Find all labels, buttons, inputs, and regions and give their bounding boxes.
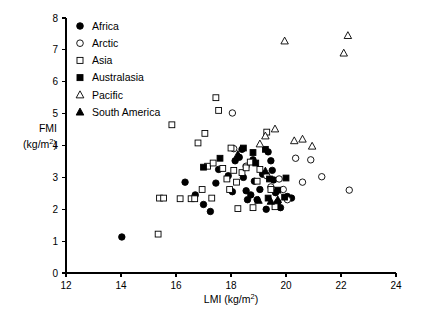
data-point bbox=[274, 196, 281, 203]
x-tick-label: 14 bbox=[115, 280, 127, 291]
data-point bbox=[256, 140, 263, 147]
data-point bbox=[227, 187, 233, 193]
data-point bbox=[276, 176, 282, 182]
data-point bbox=[169, 122, 175, 128]
data-point bbox=[268, 187, 274, 193]
data-point bbox=[235, 206, 241, 212]
y-axis-label-line1: FMI bbox=[39, 122, 57, 134]
legend-label-asia: Asia bbox=[92, 54, 113, 66]
data-point bbox=[202, 130, 208, 136]
data-point bbox=[228, 145, 234, 151]
data-point bbox=[234, 179, 240, 185]
x-tick-label: 20 bbox=[280, 280, 292, 291]
data-point bbox=[209, 195, 215, 201]
data-point bbox=[340, 49, 347, 56]
data-point bbox=[192, 196, 198, 202]
y-tick-label: 7 bbox=[52, 44, 58, 55]
data-point bbox=[271, 125, 278, 132]
y-tick-label: 1 bbox=[52, 236, 58, 247]
data-point bbox=[247, 159, 253, 165]
data-point bbox=[216, 108, 222, 114]
data-point bbox=[308, 157, 314, 163]
data-point bbox=[240, 145, 246, 151]
series-pacific bbox=[256, 32, 351, 149]
x-tick-label: 12 bbox=[60, 280, 72, 291]
data-point bbox=[263, 206, 269, 212]
data-point bbox=[195, 140, 201, 146]
legend-marker-pacific bbox=[76, 91, 84, 98]
y-tick-label: 2 bbox=[52, 204, 58, 215]
data-point bbox=[229, 110, 235, 116]
legend-marker-africa bbox=[77, 23, 84, 30]
data-point bbox=[250, 205, 256, 211]
data-point bbox=[308, 142, 315, 149]
y-tick-label: 6 bbox=[52, 76, 58, 87]
y-tick-label: 3 bbox=[52, 172, 58, 183]
data-point bbox=[292, 155, 298, 161]
legend-label-africa: Africa bbox=[92, 20, 119, 32]
x-tick-label: 22 bbox=[335, 280, 347, 291]
data-point bbox=[299, 179, 305, 185]
data-point bbox=[281, 37, 288, 44]
plot-canvas: 12141618202224012345678 AfricaArcticAsia… bbox=[0, 0, 421, 318]
data-point bbox=[268, 158, 274, 164]
y-tick-label: 5 bbox=[52, 108, 58, 119]
legend-label-australasia: Australasia bbox=[92, 71, 144, 83]
data-point bbox=[283, 175, 289, 181]
data-point bbox=[207, 208, 213, 214]
data-point bbox=[243, 165, 249, 171]
y-tick-label: 8 bbox=[52, 13, 58, 24]
data-point bbox=[177, 196, 183, 202]
data-point bbox=[220, 166, 226, 172]
data-point bbox=[213, 95, 219, 101]
data-point bbox=[257, 186, 263, 192]
data-point bbox=[275, 187, 281, 193]
data-point bbox=[299, 135, 306, 142]
x-tick-label: 16 bbox=[170, 280, 182, 291]
data-point bbox=[250, 150, 256, 156]
legend-marker-asia bbox=[77, 57, 83, 63]
scatter-plot-figure: 12141618202224012345678 AfricaArcticAsia… bbox=[0, 0, 421, 318]
y-tick-label: 0 bbox=[52, 268, 58, 279]
data-point bbox=[182, 179, 188, 185]
series-africa bbox=[119, 146, 295, 240]
legend-marker-australasia bbox=[77, 75, 83, 81]
data-point bbox=[217, 155, 223, 161]
legend-marker-arctic bbox=[77, 40, 84, 47]
data-point bbox=[346, 187, 352, 193]
data-point bbox=[248, 192, 254, 198]
data-point bbox=[267, 176, 273, 182]
data-point bbox=[282, 194, 288, 200]
data-point bbox=[224, 176, 230, 182]
data-point bbox=[269, 167, 275, 173]
data-points-group bbox=[119, 32, 353, 241]
x-tick-label: 18 bbox=[225, 280, 237, 291]
data-point bbox=[257, 166, 263, 172]
x-tick-label: 24 bbox=[390, 280, 402, 291]
legend-group: AfricaArcticAsiaAustralasiaPacificSouth … bbox=[76, 20, 160, 118]
data-point bbox=[200, 201, 206, 207]
legend-label-pacific: Pacific bbox=[92, 89, 123, 101]
data-point bbox=[344, 32, 351, 39]
data-point bbox=[291, 137, 298, 144]
series-asia bbox=[155, 95, 278, 237]
legend-label-south-america: South America bbox=[92, 106, 160, 118]
data-point bbox=[319, 174, 325, 180]
data-point bbox=[201, 164, 207, 170]
data-point bbox=[231, 167, 237, 173]
data-point bbox=[199, 187, 205, 193]
legend-marker-south-america bbox=[76, 108, 84, 115]
data-point bbox=[210, 160, 216, 166]
legend-label-arctic: Arctic bbox=[92, 37, 118, 49]
data-point bbox=[254, 178, 260, 184]
data-point bbox=[161, 195, 167, 201]
data-point bbox=[155, 231, 161, 237]
data-point bbox=[253, 160, 259, 166]
x-axis-label: LMI (kg/m2) bbox=[204, 292, 258, 306]
data-point bbox=[213, 180, 219, 186]
data-point bbox=[119, 234, 125, 240]
